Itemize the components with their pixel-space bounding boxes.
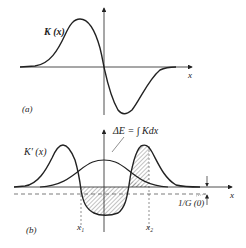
x-axis-label-a: x [188, 71, 192, 80]
diagram-canvas [0, 0, 246, 248]
delta-e-annotation: ΔE = ∫ Kdx [113, 126, 158, 136]
panel-a-tag: (a) [22, 105, 33, 114]
k-curve-label: K (x) [44, 27, 65, 37]
panel-b-tag: (b) [26, 226, 37, 235]
k-prime-curve-label: K′ (x) [24, 147, 46, 157]
hatched-region-center [81, 187, 129, 215]
panel-b [14, 130, 232, 232]
x2-label: x₂ [146, 223, 153, 232]
panel-a [20, 8, 192, 115]
offset-label: 1/G (0) [178, 199, 204, 208]
annotation-leader [112, 137, 124, 152]
x-axis-label-b: x [230, 191, 234, 200]
x1-label: x₁ [77, 223, 84, 232]
